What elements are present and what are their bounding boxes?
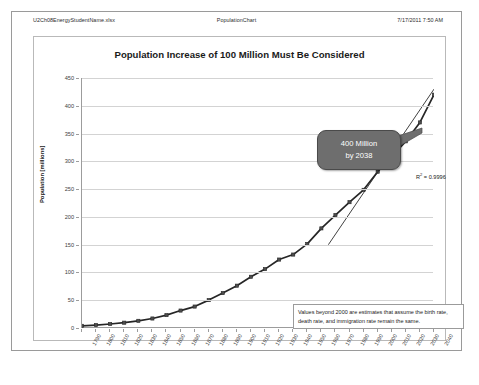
header-timestamp: 7/17/2011 7:50 AM xyxy=(397,17,443,23)
x-axis-tick-label: 1820 xyxy=(133,333,144,346)
x-axis-tick xyxy=(109,329,110,332)
y-axis-tick-label: 250 xyxy=(65,186,74,192)
gridline xyxy=(82,189,433,190)
x-axis-labels: 1790180018101820183018401850186018701880… xyxy=(81,329,433,363)
x-axis-tick-label: 1810 xyxy=(119,333,130,346)
x-axis-tick xyxy=(151,329,152,332)
x-axis-tick xyxy=(433,329,434,332)
x-axis-tick-label: 1830 xyxy=(147,333,158,346)
callout-400-million: 400 Million by 2038 xyxy=(317,130,401,170)
plot-area xyxy=(81,78,433,328)
x-axis-tick xyxy=(236,329,237,332)
x-axis-tick xyxy=(349,329,350,332)
x-axis-tick-label: 1980 xyxy=(359,333,370,346)
r2-value: = 0.9996 xyxy=(422,174,445,180)
r-squared-label: R2 = 0.9996 xyxy=(416,172,446,180)
x-axis-tick xyxy=(194,329,195,332)
x-axis-tick-label: 1910 xyxy=(260,333,271,346)
x-axis-tick-label: 1850 xyxy=(175,333,186,346)
x-axis-tick-label: 1800 xyxy=(105,333,116,346)
y-axis-tick-label: 350 xyxy=(65,131,74,137)
gridline xyxy=(82,217,433,218)
x-axis-tick xyxy=(81,329,82,332)
x-axis-tick-label: 1960 xyxy=(330,333,341,346)
y-axis-tick-label: 50 xyxy=(68,297,74,303)
callout-line-2: by 2038 xyxy=(345,150,372,162)
y-axis-tick-label: 450 xyxy=(65,75,74,81)
x-axis-tick xyxy=(320,329,321,332)
gridline xyxy=(82,272,433,273)
print-header: U2Ch08EnergyStudentName.xlsx PopulationC… xyxy=(12,17,461,31)
x-axis-tick xyxy=(250,329,251,332)
y-axis-tick xyxy=(76,161,79,162)
x-axis-tick xyxy=(264,329,265,332)
x-axis-tick xyxy=(95,329,96,332)
x-axis-tick-label: 2000 xyxy=(387,333,398,346)
gridline xyxy=(82,78,433,79)
x-axis-tick-label: 1860 xyxy=(190,333,201,346)
x-axis-tick xyxy=(137,329,138,332)
y-axis-tick xyxy=(76,328,79,329)
chart-title: Population Increase of 100 Million Must … xyxy=(34,49,445,60)
x-axis-tick-label: 1870 xyxy=(204,333,215,346)
x-axis-tick xyxy=(222,329,223,332)
y-axis-tick-label: 200 xyxy=(65,214,74,220)
x-axis-tick xyxy=(391,329,392,332)
x-axis-tick xyxy=(278,329,279,332)
gridline xyxy=(82,245,433,246)
x-axis-tick xyxy=(123,329,124,332)
y-axis-labels: 050100150200250300350400450 xyxy=(34,78,79,328)
x-axis-tick-label: 2020 xyxy=(415,333,426,346)
y-axis-tick xyxy=(76,272,79,273)
header-sheet-name: PopulationChart xyxy=(12,17,461,23)
x-axis-tick xyxy=(419,329,420,332)
population-line-series xyxy=(82,78,434,328)
x-axis-tick-label: 2010 xyxy=(401,333,412,346)
x-axis-tick xyxy=(292,329,293,332)
y-axis-tick xyxy=(76,78,79,79)
x-axis-tick xyxy=(363,329,364,332)
x-axis-tick xyxy=(405,329,406,332)
y-axis-tick xyxy=(76,300,79,301)
y-axis-tick xyxy=(76,134,79,135)
chart-container: Population Increase of 100 Million Must … xyxy=(33,36,446,341)
x-axis-tick xyxy=(377,329,378,332)
assumptions-note: Values beyond 2000 are estimates that as… xyxy=(293,304,464,329)
x-axis-tick-label: 1840 xyxy=(161,333,172,346)
x-axis-tick-label: 1900 xyxy=(246,333,257,346)
y-axis-tick-label: 100 xyxy=(65,269,74,275)
printed-page: U2Ch08EnergyStudentName.xlsx PopulationC… xyxy=(11,11,462,351)
x-axis-tick xyxy=(165,329,166,332)
x-axis-tick-label: 1930 xyxy=(288,333,299,346)
y-axis-tick xyxy=(76,189,79,190)
y-axis-tick xyxy=(76,106,79,107)
y-axis-tick-label: 400 xyxy=(65,103,74,109)
x-axis-tick xyxy=(334,329,335,332)
y-axis-tick xyxy=(76,217,79,218)
y-axis-tick-label: 300 xyxy=(65,158,74,164)
x-axis-tick-label: 1790 xyxy=(91,333,102,346)
x-axis-tick-label: 1880 xyxy=(218,333,229,346)
x-axis-tick-label: 2030 xyxy=(429,333,440,346)
gridline xyxy=(82,300,433,301)
x-axis-tick-label: 1970 xyxy=(344,333,355,346)
x-axis-tick-label: 1890 xyxy=(232,333,243,346)
x-axis-tick-label: 1990 xyxy=(373,333,384,346)
x-axis-tick-label: 1920 xyxy=(274,333,285,346)
x-axis-tick xyxy=(180,329,181,332)
y-axis-tick-label: 0 xyxy=(71,325,74,331)
x-axis-tick-label: 1950 xyxy=(316,333,327,346)
x-axis-tick xyxy=(306,329,307,332)
x-axis-tick xyxy=(208,329,209,332)
y-axis-tick xyxy=(76,245,79,246)
gridline xyxy=(82,106,433,107)
x-axis-tick-label: 2040 xyxy=(443,333,454,346)
y-axis-tick-label: 150 xyxy=(65,242,74,248)
x-axis-tick-label: 1940 xyxy=(302,333,313,346)
callout-line-1: 400 Million xyxy=(341,138,377,150)
